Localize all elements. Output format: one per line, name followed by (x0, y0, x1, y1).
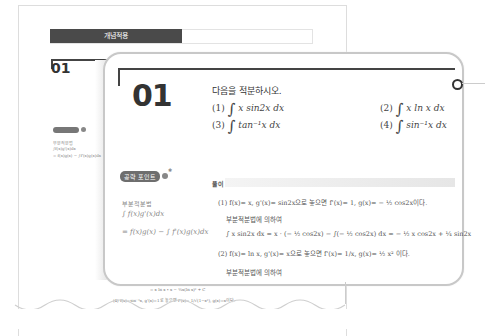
background-solution-line: = x ln x ∙ x − ½x(ln x)² + C (150, 287, 205, 292)
tip-title: 부분적분법 (122, 199, 152, 208)
problem-prompt: 다음을 적분하시오. (212, 84, 282, 97)
problem-expression: tan⁻¹x dx (238, 120, 280, 130)
solution-line: ∫ x sin2x dx = x · (− ½ cos2x) − ∫(− ½ c… (226, 230, 471, 238)
problem-expression: x sin2x dx (238, 103, 284, 113)
solution-line: (1) f(x)= x, g'(x)= sin2x으로 놓으면 f'(x)= 1… (218, 197, 427, 207)
connector-dot-icon (452, 79, 463, 90)
solution-header-bar (225, 178, 455, 187)
card-number-rule (118, 68, 455, 70)
problem-expression: x ln x dx (406, 103, 444, 113)
background-tip-line: ∫f(x)g'(x)dx (53, 146, 76, 151)
tip-dot-icon (162, 173, 168, 179)
integral-icon: ∫ (396, 100, 404, 118)
problem-item: (3) ∫ tan⁻¹x dx (212, 117, 280, 135)
solution-line: 부분적분법에 의하여 (226, 267, 282, 277)
solution-line: 부분적분법에 의하여 (226, 214, 282, 224)
tip-formula: ∫ f(x)g'(x)dx (122, 210, 164, 218)
torn-edge-wave (0, 295, 485, 329)
problem-label: (4) (380, 120, 393, 130)
problem-item: (1) ∫ x sin2x dx (212, 100, 284, 118)
background-tip-badge (53, 127, 79, 133)
solution-line: (2) f(x)= ln x, g'(x)= x으로 놓으면 f'(x)= 1/… (218, 248, 410, 258)
problem-item: (4) ∫ sin⁻¹x dx (380, 117, 447, 135)
card-problem-number: 01 (132, 78, 172, 113)
background-problem-number: 01 (51, 60, 70, 76)
tip-star-icon: ✱ (168, 167, 172, 173)
background-tip-dot-icon (81, 127, 86, 132)
problem-label: (1) (212, 103, 225, 113)
connector-line (462, 83, 485, 84)
background-tip-line: = f(x)g(x) − ∫f'(x)g(x)dx (53, 153, 101, 158)
solution-label: 풀이 (212, 179, 224, 188)
problem-label: (2) (380, 103, 393, 113)
card-number-tick (118, 68, 120, 86)
background-header-label: 개념적용 (50, 29, 182, 43)
problem-label: (3) (212, 120, 225, 130)
tip-formula: = f(x)g(x) − ∫ f'(x)g(x)dx (122, 228, 208, 236)
tip-badge: 공략 포인트 (120, 171, 160, 182)
problem-item: (2) ∫ x ln x dx (380, 100, 445, 118)
integral-icon: ∫ (228, 117, 236, 135)
integral-icon: ∫ (228, 100, 236, 118)
integral-icon: ∫ (396, 117, 404, 135)
problem-expression: sin⁻¹x dx (406, 120, 446, 130)
